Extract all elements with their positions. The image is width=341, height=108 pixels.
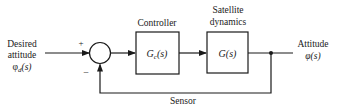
input-label-line1: Desired <box>7 39 37 49</box>
summing-junction <box>90 43 111 64</box>
plus-sign: + <box>78 38 83 48</box>
minus-sign: − <box>83 67 89 78</box>
plant-title-line2: dynamics <box>210 17 247 27</box>
input-symbol: φd(s) <box>12 62 31 74</box>
sensor-label: Sensor <box>170 96 197 106</box>
input-label-line2: attitude <box>8 50 37 60</box>
plant-title-line1: Satellite <box>212 5 243 15</box>
input-label: Desired attitude φd(s) <box>7 39 37 74</box>
controller-title: Controller <box>137 18 177 28</box>
output-symbol: φ(s) <box>305 51 320 62</box>
controller-transfer-function: Gc(s) <box>147 48 169 61</box>
plant-transfer-function: G(s) <box>219 48 237 60</box>
output-label-line1: Attitude <box>297 39 328 49</box>
block-diagram: Desired attitude φd(s) + − Controller Gc… <box>0 0 341 108</box>
